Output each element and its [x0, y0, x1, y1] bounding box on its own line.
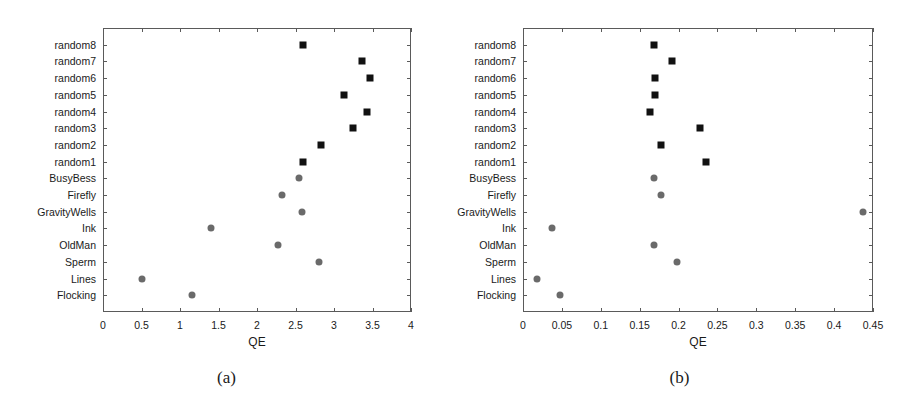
y-tick-a-random5	[103, 95, 107, 96]
data-point-a-Sperm	[315, 258, 322, 265]
y-tick-a-random3	[103, 128, 107, 129]
y-tick-right-a-BusyBess	[407, 178, 411, 179]
data-point-a-Firefly	[279, 192, 286, 199]
x-tick-b-1	[562, 308, 563, 312]
y-tick-label-a-GravityWells: GravityWells	[0, 206, 96, 218]
y-tick-a-random6	[103, 78, 107, 79]
y-tick-label-b-random4: random4	[453, 106, 516, 118]
x-tick-top-a-1	[142, 28, 143, 32]
data-point-b-random5	[652, 91, 659, 98]
y-tick-right-b-OldMan	[869, 245, 873, 246]
y-tick-right-a-random6	[407, 78, 411, 79]
x-tick-a-3	[219, 308, 220, 312]
x-tick-top-b-4	[679, 28, 680, 32]
x-tick-a-6	[334, 308, 335, 312]
y-tick-right-a-GravityWells	[407, 212, 411, 213]
y-tick-a-BusyBess	[103, 178, 107, 179]
y-tick-a-Firefly	[103, 195, 107, 196]
data-point-b-Sperm	[674, 258, 681, 265]
x-tick-b-9	[873, 308, 874, 312]
data-point-b-Ink	[548, 225, 555, 232]
x-tick-top-b-8	[834, 28, 835, 32]
x-tick-b-8	[834, 308, 835, 312]
y-tick-right-b-random3	[869, 128, 873, 129]
x-tick-label-b-5: 0.25	[707, 319, 727, 331]
x-tick-label-a-6: 3	[331, 319, 337, 331]
y-tick-b-Sperm	[523, 262, 527, 263]
data-point-a-random3	[350, 125, 357, 132]
data-point-a-Flocking	[188, 292, 195, 299]
y-tick-right-b-random2	[869, 145, 873, 146]
x-tick-label-b-2: 0.1	[593, 319, 608, 331]
x-tick-label-b-7: 0.35	[785, 319, 805, 331]
y-tick-b-random1	[523, 162, 527, 163]
data-point-b-Lines	[534, 275, 541, 282]
y-tick-label-a-Sperm: Sperm	[0, 256, 96, 268]
y-tick-a-Ink	[103, 228, 107, 229]
x-tick-a-2	[180, 308, 181, 312]
data-point-a-GravityWells	[298, 208, 305, 215]
y-tick-label-a-Flocking: Flocking	[0, 289, 96, 301]
x-tick-label-b-4: 0.2	[671, 319, 686, 331]
x-tick-label-b-6: 0.3	[749, 319, 764, 331]
y-tick-label-b-random3: random3	[453, 122, 516, 134]
y-tick-a-random1	[103, 162, 107, 163]
x-tick-a-4	[257, 308, 258, 312]
x-tick-top-b-1	[562, 28, 563, 32]
y-tick-right-b-Ink	[869, 228, 873, 229]
data-point-a-Ink	[207, 225, 214, 232]
data-point-b-random7	[669, 58, 676, 65]
y-tick-a-Sperm	[103, 262, 107, 263]
data-point-a-Lines	[138, 275, 145, 282]
x-tick-a-8	[411, 308, 412, 312]
x-tick-label-a-0: 0	[100, 319, 106, 331]
y-tick-a-Flocking	[103, 295, 107, 296]
y-tick-label-b-random1: random1	[453, 156, 516, 168]
y-tick-label-a-random1: random1	[0, 156, 96, 168]
figure-container: QE (a) 00.511.522.533.54random8random7ra…	[0, 0, 906, 418]
x-tick-label-a-1: 0.5	[134, 319, 149, 331]
x-tick-label-a-2: 1	[177, 319, 183, 331]
y-tick-b-OldMan	[523, 245, 527, 246]
subcaption-a: (a)	[0, 368, 453, 388]
y-tick-b-random6	[523, 78, 527, 79]
y-tick-label-a-Lines: Lines	[0, 273, 96, 285]
y-tick-b-Lines	[523, 279, 527, 280]
x-tick-label-a-8: 4	[408, 319, 414, 331]
y-tick-right-b-random4	[869, 112, 873, 113]
y-tick-a-random4	[103, 112, 107, 113]
y-tick-right-b-random8	[869, 45, 873, 46]
y-tick-right-a-Lines	[407, 279, 411, 280]
y-tick-label-a-Firefly: Firefly	[0, 189, 96, 201]
x-tick-top-b-2	[601, 28, 602, 32]
y-tick-label-b-BusyBess: BusyBess	[453, 172, 516, 184]
y-tick-label-b-Firefly: Firefly	[453, 189, 516, 201]
y-tick-label-a-random4: random4	[0, 106, 96, 118]
panel-a: QE (a) 00.511.522.533.54random8random7ra…	[0, 0, 453, 418]
x-tick-top-b-7	[795, 28, 796, 32]
y-tick-label-b-random8: random8	[453, 39, 516, 51]
x-tick-b-2	[601, 308, 602, 312]
y-tick-label-b-Sperm: Sperm	[453, 256, 516, 268]
x-tick-top-a-0	[103, 28, 104, 32]
x-tick-b-4	[679, 308, 680, 312]
y-tick-a-GravityWells	[103, 212, 107, 213]
x-tick-label-b-0: 0	[520, 319, 526, 331]
y-tick-label-b-GravityWells: GravityWells	[453, 206, 516, 218]
y-tick-right-b-random7	[869, 61, 873, 62]
y-tick-right-b-Firefly	[869, 195, 873, 196]
x-tick-top-a-2	[180, 28, 181, 32]
data-point-a-random2	[317, 141, 324, 148]
x-tick-b-6	[756, 308, 757, 312]
y-tick-right-a-Ink	[407, 228, 411, 229]
x-tick-label-a-7: 3.5	[365, 319, 380, 331]
data-point-b-Flocking	[557, 292, 564, 299]
x-tick-top-a-5	[296, 28, 297, 32]
x-tick-label-a-4: 2	[254, 319, 260, 331]
y-tick-label-b-OldMan: OldMan	[453, 239, 516, 251]
y-tick-b-BusyBess	[523, 178, 527, 179]
x-tick-top-a-6	[334, 28, 335, 32]
data-point-a-random5	[341, 91, 348, 98]
y-tick-right-b-Flocking	[869, 295, 873, 296]
y-tick-right-b-Lines	[869, 279, 873, 280]
